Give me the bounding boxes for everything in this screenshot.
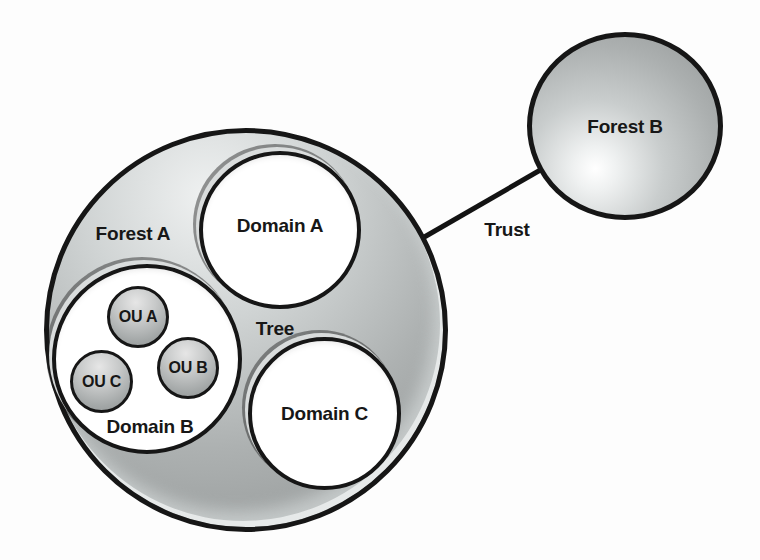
domain-c-circle: Domain C [248, 337, 401, 490]
domain-a-label: Domain A [237, 216, 323, 235]
ou-a-label: OU A [119, 309, 158, 325]
ou-c-circle: OU C [70, 350, 133, 413]
tree-label: Tree [256, 319, 294, 338]
forest-a-circle: Forest A Domain A Tree OU A OU B OU C Do… [44, 128, 448, 532]
forest-a-label: Forest A [96, 224, 171, 243]
domain-c-label: Domain C [281, 404, 368, 423]
ad-forest-trust-diagram: Forest A Domain A Tree OU A OU B OU C Do… [0, 0, 760, 560]
domain-b-label: Domain B [106, 417, 193, 436]
ou-c-label: OU C [82, 374, 121, 390]
forest-b-label: Forest B [587, 117, 662, 136]
domain-b-circle: OU A OU B OU C Domain B [52, 264, 242, 454]
ou-b-label: OU B [168, 360, 207, 376]
domain-a-circle: Domain A [199, 151, 361, 309]
ou-a-circle: OU A [107, 286, 169, 348]
trust-label: Trust [484, 220, 529, 239]
ou-b-circle: OU B [157, 337, 219, 399]
forest-b-circle: Forest B [527, 32, 723, 220]
